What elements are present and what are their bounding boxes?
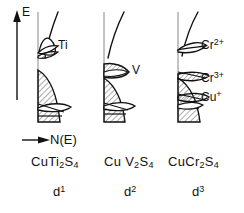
d-count-label-3: d3	[192, 185, 204, 198]
d-count-label-2: d2	[124, 185, 136, 198]
energy-axis-label: E	[22, 6, 30, 18]
band-label-v: V	[132, 64, 140, 76]
compound-1-sub2: 4	[73, 160, 78, 170]
compound-2-sub2: 4	[148, 160, 153, 170]
compound-1-head: CuTi	[31, 154, 59, 169]
energy-axis	[13, 10, 21, 100]
compound-2-head: Cu V	[104, 154, 134, 169]
dos-axis-label: N(E)	[50, 133, 77, 146]
compound-label-3: CuCr2S4	[168, 155, 219, 170]
d-count-3-exponent: 3	[199, 184, 204, 194]
band-label-cr2plus: Cr2+	[201, 38, 224, 51]
compound-label-1: CuTi2S4	[31, 155, 79, 170]
band-label-cuplus: Cu+	[201, 90, 222, 103]
compound-3-head: CuCr	[168, 154, 200, 169]
band-label-cuplus-charge: +	[216, 89, 221, 99]
band-label-cr2plus-text: Cr	[201, 38, 214, 52]
panel-1-curves	[38, 12, 71, 122]
band-label-cr3plus: Cr3+	[201, 71, 224, 84]
dos-diagram-svg	[0, 0, 244, 213]
compound-label-2: Cu V2S4	[104, 155, 154, 170]
panel-2-curves	[104, 12, 135, 122]
band-label-cr2plus-charge: 2+	[214, 37, 224, 47]
band-label-cr3plus-text: Cr	[201, 71, 214, 85]
d-count-1-exponent: 1	[60, 184, 65, 194]
dos-axis	[22, 136, 50, 143]
dos-figure: E Ti V Cr2+ Cr3+ Cu+ N(E) CuTi2S4 Cu V2S…	[0, 0, 244, 213]
compound-3-mid: S	[205, 154, 214, 169]
band-label-cuplus-text: Cu	[201, 90, 216, 104]
compound-3-sub2: 4	[214, 160, 219, 170]
panel-3-curves	[178, 12, 209, 122]
d-count-2-exponent: 2	[131, 184, 136, 194]
band-label-ti: Ti	[58, 39, 68, 51]
band-label-cr3plus-charge: 3+	[214, 70, 224, 80]
d-count-label-1: d1	[53, 185, 65, 198]
